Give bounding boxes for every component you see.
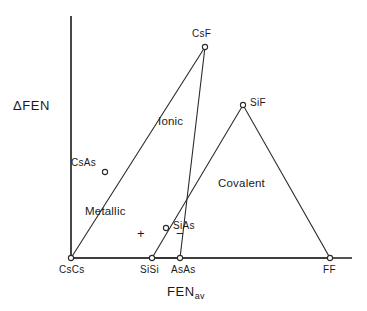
tick-label-asas: AsAs xyxy=(171,265,196,275)
vertex-label-csas: CsAs xyxy=(71,158,96,168)
vertex-label-csf: CsF xyxy=(192,29,211,39)
marker-sif xyxy=(240,102,245,107)
vertex-label-sif: SiF xyxy=(250,98,266,108)
marker-sisi xyxy=(149,255,154,260)
marker-asas xyxy=(177,255,182,260)
bonding-triangle-figure: CsF SiF CsAs SiAs CsCs SiSi AsAs FF Ioni… xyxy=(0,0,367,311)
x-axis-title-main: FEN xyxy=(167,284,195,299)
marker-csas xyxy=(102,169,107,174)
marker-cscs xyxy=(68,255,73,260)
region-label-metallic: Metallic xyxy=(85,206,126,218)
tick-label-sisi: SiSi xyxy=(140,265,159,275)
region-label-covalent: Covalent xyxy=(218,178,265,190)
region-label-ionic: Ionic xyxy=(158,116,183,128)
x-axis-title-subscript: av xyxy=(195,291,205,301)
sign-label-plus: + xyxy=(137,227,145,240)
x-axis-title: FENav xyxy=(167,285,205,298)
marker-csf xyxy=(202,44,207,49)
tick-label-cscs: CsCs xyxy=(59,265,85,275)
marker-ff xyxy=(327,255,332,260)
sign-label-minus: − xyxy=(176,227,184,240)
marker-sias xyxy=(163,225,168,230)
y-axis-title: ΔFEN xyxy=(13,99,50,112)
tick-label-ff: FF xyxy=(323,265,336,275)
